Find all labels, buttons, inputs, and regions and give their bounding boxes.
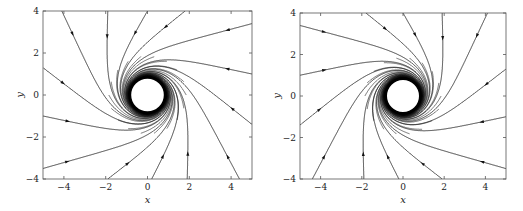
y-tick-label: 4 bbox=[33, 6, 39, 16]
streamlines bbox=[43, 11, 252, 179]
x-tick-label: −4 bbox=[57, 182, 71, 192]
y-tick-label: 0 bbox=[33, 90, 39, 100]
plot-frame bbox=[43, 11, 252, 179]
y-tick-label: 2 bbox=[33, 48, 39, 58]
arrow-marker bbox=[134, 30, 138, 35]
y-tick-label: −2 bbox=[26, 132, 39, 142]
arrow-marker bbox=[106, 34, 109, 39]
right-streamplot-panel: −4−2024−4−2024xy bbox=[271, 8, 506, 205]
arrow-marker bbox=[441, 36, 444, 41]
arrow-marker bbox=[225, 28, 230, 31]
arrow-marker bbox=[480, 161, 485, 164]
arrow-marker bbox=[322, 69, 327, 72]
x-tick-label: −2 bbox=[99, 182, 112, 192]
figure: −4−2024−4−2024xy −4−2024−4−2024xy bbox=[0, 0, 523, 211]
streamline bbox=[127, 69, 240, 179]
arrow-marker bbox=[362, 152, 365, 157]
y-tick-label: −4 bbox=[283, 174, 297, 184]
x-axis-label: x bbox=[400, 194, 406, 205]
arrow-marker bbox=[476, 33, 479, 38]
plot-frame bbox=[300, 13, 506, 179]
x-tick-label: 2 bbox=[186, 182, 192, 192]
y-axis-label: y bbox=[14, 92, 25, 99]
arrow-marker bbox=[322, 155, 326, 160]
arrow-marker bbox=[322, 30, 327, 33]
x-tick-label: 4 bbox=[483, 182, 489, 192]
arrow-marker bbox=[65, 161, 70, 164]
limit-cycle bbox=[386, 79, 421, 114]
streamline bbox=[363, 73, 423, 179]
arrow-marker bbox=[70, 31, 73, 36]
arrow-marker bbox=[161, 154, 164, 159]
arrow-marker bbox=[186, 151, 189, 156]
y-tick-label: 4 bbox=[290, 8, 296, 18]
streamline bbox=[107, 11, 168, 119]
x-tick-label: 4 bbox=[228, 182, 234, 192]
streamline bbox=[127, 71, 188, 179]
x-axis-label: x bbox=[145, 194, 151, 205]
x-tick-label: 2 bbox=[441, 182, 447, 192]
x-tick-label: 0 bbox=[145, 182, 151, 192]
x-tick-label: −4 bbox=[314, 182, 328, 192]
arrow-marker bbox=[65, 119, 70, 122]
arrow-marker bbox=[479, 120, 484, 123]
arrow-marker bbox=[413, 32, 417, 37]
y-tick-label: −2 bbox=[283, 133, 296, 143]
streamline bbox=[312, 71, 423, 180]
x-tick-label: −2 bbox=[355, 182, 368, 192]
arrow-marker bbox=[225, 68, 230, 71]
x-tick-label: 0 bbox=[400, 182, 406, 192]
left-streamplot-panel: −4−2024−4−2024xy bbox=[14, 6, 252, 205]
y-tick-label: −4 bbox=[26, 174, 40, 184]
y-tick-label: 0 bbox=[290, 91, 296, 101]
limit-cycle bbox=[130, 77, 166, 113]
arrow-marker bbox=[227, 155, 230, 160]
arrow-marker bbox=[387, 155, 390, 160]
y-axis-label: y bbox=[271, 93, 282, 100]
streamline bbox=[383, 13, 443, 119]
streamlines bbox=[300, 13, 506, 179]
y-tick-label: 2 bbox=[290, 50, 296, 60]
